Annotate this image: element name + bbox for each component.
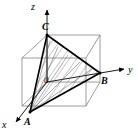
z-axis-label: z bbox=[31, 2, 35, 12]
y-axis-label: y bbox=[128, 65, 132, 75]
vertex-label-C: C bbox=[42, 22, 49, 32]
vertex-label-B: B bbox=[101, 76, 108, 86]
origin-label: 0 bbox=[44, 76, 49, 85]
geometry-figure: z y x A B C 0 bbox=[0, 0, 138, 135]
figure-canvas bbox=[0, 0, 138, 135]
vertex-label-A: A bbox=[24, 117, 31, 127]
vertex-dot-A bbox=[29, 111, 32, 114]
vertex-dot-C bbox=[46, 34, 49, 37]
x-axis-label: x bbox=[2, 120, 6, 130]
